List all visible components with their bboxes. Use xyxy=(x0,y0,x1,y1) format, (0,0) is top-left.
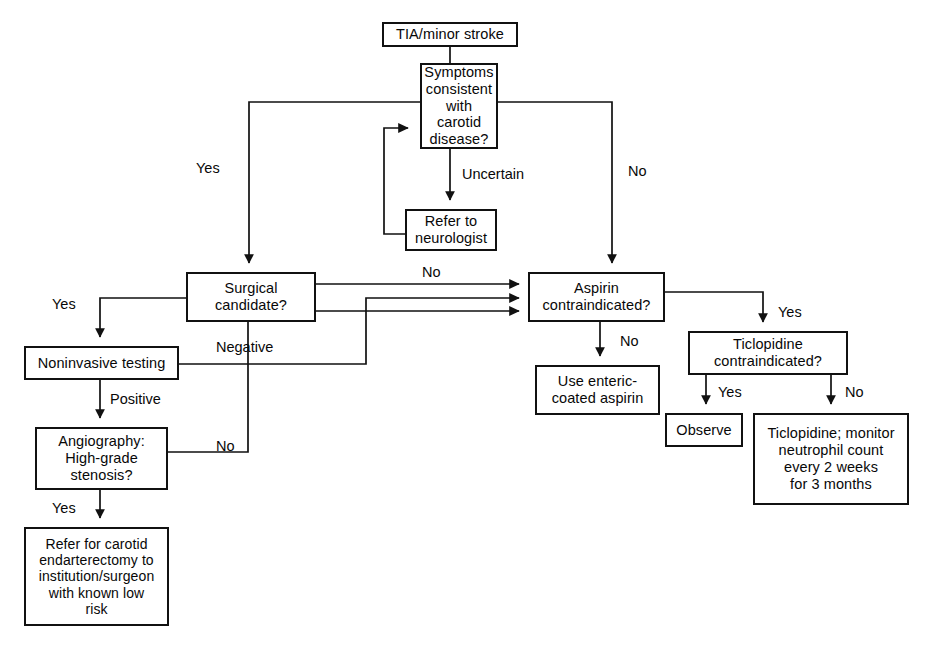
edge-symptoms-no-to-aspirin xyxy=(497,102,612,263)
flowchart-canvas: TIA/minor stroke Symptoms consistent wit… xyxy=(0,0,928,651)
edge-symptoms-yes-to-surgical xyxy=(249,102,420,263)
node-use-enteric-coated-aspirin[interactable]: Use enteric- coated aspirin xyxy=(535,365,660,415)
edge-label-ticlopidine-no: No xyxy=(845,385,864,400)
node-noninvasive-testing[interactable]: Noninvasive testing xyxy=(24,346,179,380)
node-label: Symptoms consistent with carotid disease… xyxy=(424,64,493,149)
edge-label-angiography-no: No xyxy=(216,439,235,454)
node-label: Aspirin contraindicated? xyxy=(542,280,650,314)
edge-label-surgical-yes: Yes xyxy=(52,297,76,312)
edge-label-aspirin-yes: Yes xyxy=(778,305,802,320)
edge-label-symptoms-yes: Yes xyxy=(196,161,220,176)
node-ticlopidine-monitor-regimen[interactable]: Ticlopidine; monitor neutrophil count ev… xyxy=(753,413,909,505)
edge-label-noninvasive-positive: Positive xyxy=(110,392,161,407)
node-label: Refer for carotid endarterectomy to inst… xyxy=(39,536,155,618)
node-label: Angiography: High-grade stenosis? xyxy=(58,433,145,484)
edge-aspirin-yes-to-ticlopidine-q xyxy=(665,292,763,322)
node-label: Refer to neurologist xyxy=(415,213,487,247)
edge-label-symptoms-uncertain: Uncertain xyxy=(462,167,524,182)
node-angiography-high-grade-stenosis[interactable]: Angiography: High-grade stenosis? xyxy=(35,427,168,490)
node-label: Use enteric- coated aspirin xyxy=(552,373,644,407)
node-label: Ticlopidine contraindicated? xyxy=(714,336,822,370)
node-refer-for-carotid-endarterectomy[interactable]: Refer for carotid endarterectomy to inst… xyxy=(24,527,169,626)
node-label: Ticlopidine; monitor neutrophil count ev… xyxy=(767,425,894,493)
node-label: Observe xyxy=(676,422,732,439)
node-surgical-candidate[interactable]: Surgical candidate? xyxy=(186,272,316,322)
node-aspirin-contraindicated[interactable]: Aspirin contraindicated? xyxy=(528,272,665,322)
node-refer-to-neurologist[interactable]: Refer to neurologist xyxy=(405,209,497,251)
edge-label-angiography-yes: Yes xyxy=(52,501,76,516)
node-tia-minor-stroke[interactable]: TIA/minor stroke xyxy=(382,22,518,47)
edge-angiography-no-to-aspirin xyxy=(167,311,519,452)
edge-label-symptoms-no: No xyxy=(628,164,647,179)
node-label: Surgical candidate? xyxy=(215,280,287,314)
node-observe[interactable]: Observe xyxy=(665,413,743,447)
edge-label-surgical-no: No xyxy=(422,265,441,280)
edge-label-noninvasive-negative: Negative xyxy=(216,340,273,355)
edge-label-aspirin-no: No xyxy=(620,334,639,349)
node-symptoms-consistent-carotid[interactable]: Symptoms consistent with carotid disease… xyxy=(420,63,498,149)
edge-surgical-yes-to-noninvasive xyxy=(100,298,186,337)
node-ticlopidine-contraindicated[interactable]: Ticlopidine contraindicated? xyxy=(688,331,848,375)
edge-label-ticlopidine-yes: Yes xyxy=(718,385,742,400)
node-label: TIA/minor stroke xyxy=(396,26,504,43)
node-label: Noninvasive testing xyxy=(38,355,166,372)
